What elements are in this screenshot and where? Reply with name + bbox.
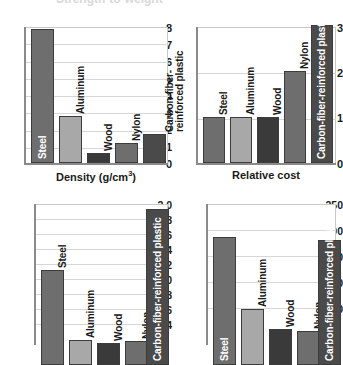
bars-density: Steel Aluminum Wood Nylon Carbon-fiber-r… — [26, 27, 168, 163]
bar-label-specific-aluminum: Aluminum — [258, 259, 268, 307]
bars-relative-cost: Steel Aluminum Wood Nylon Carbon-fiber-r… — [198, 27, 336, 163]
plot-area-relative-cost: Steel Aluminum Wood Nylon Carbon-fiber-r… — [196, 27, 336, 165]
bar-density-wood[interactable]: Wood — [87, 153, 110, 163]
bar-label-strength-cfrp: Carbon-fiber-reinforced plastic — [153, 217, 163, 361]
xaxis-caption-density-tail: ) — [132, 171, 136, 183]
bar-density-aluminum[interactable]: Aluminum — [59, 116, 82, 163]
xaxis-caption-density: Density (g/cm3) — [24, 169, 168, 183]
plot-area-specific-strength: Steel Aluminum Wood Nylon Carbon-fiber-r… — [206, 204, 336, 345]
bars-relative-strength: Steel Aluminum Wood Nylon Carbon-fiber-r… — [36, 204, 168, 365]
bar-cost-nylon[interactable]: Nylon — [284, 71, 306, 163]
chart-panel-specific-strength: 250 200 150 100 50 Steel Aluminum Wood — [172, 192, 343, 345]
bar-cost-aluminum[interactable]: Aluminum — [230, 117, 252, 163]
bar-label-strength-steel: Steel — [58, 245, 68, 268]
bar-strength-wood[interactable]: Wood — [97, 343, 120, 365]
bar-label-specific-cfrp: Carbon-fiber-reinforced plastic — [325, 217, 335, 361]
xaxis-caption-density-base: Density (g/cm — [56, 171, 128, 183]
bar-label-cost-cfrp: Carbon-fiber-reinforced plastic — [317, 15, 327, 159]
bar-label-cost-wood: Wood — [273, 88, 283, 115]
bar-cost-steel[interactable]: Steel — [203, 117, 225, 163]
bar-specific-aluminum[interactable]: Aluminum — [241, 309, 264, 365]
bar-label-density-wood: Wood — [104, 123, 114, 150]
bar-specific-nylon[interactable]: Nylon — [297, 331, 320, 365]
bar-strength-aluminum[interactable]: Aluminum — [69, 340, 92, 365]
bar-strength-cfrp[interactable]: Carbon-fiber-reinforced plastic — [146, 209, 169, 365]
plot-area-relative-strength: Steel Aluminum Wood Nylon Carbon-fiber-r… — [34, 204, 168, 345]
bar-label-specific-wood: Wood — [286, 300, 296, 327]
chart-panel-relative-strength: 2.0 1.8 1.6 1.4 1.2 1.0 0.8 0.6 0.4 Stee… — [0, 192, 172, 345]
bar-cost-cfrp[interactable]: Carbon-fiber-reinforced plastic — [311, 25, 333, 163]
xaxis-caption-relative-cost: Relative cost — [196, 169, 336, 181]
chart-panel-density: 8 7 6 5 4 3 2 1 0 Steel Aluminum — [0, 8, 172, 185]
bar-strength-nylon[interactable]: Nylon — [125, 341, 148, 365]
bar-density-nylon[interactable]: Nylon — [115, 143, 138, 163]
bar-specific-cfrp[interactable]: Carbon-fiber-reinforced plastic — [318, 240, 341, 365]
bar-label-cost-nylon: Nylon — [300, 42, 310, 69]
bar-label-strength-wood: Wood — [114, 314, 124, 341]
bar-density-cfrp[interactable]: Carbon-fiber-reinforced plastic — [143, 134, 166, 163]
bars-specific-strength: Steel Aluminum Wood Nylon Carbon-fiber-r… — [208, 204, 336, 365]
plot-area-density: Steel Aluminum Wood Nylon Carbon-fiber-r… — [24, 27, 168, 165]
bar-label-density-steel: Steel — [38, 136, 48, 159]
bar-specific-steel[interactable]: Steel — [213, 237, 236, 365]
bar-label-specific-steel: Steel — [220, 338, 230, 361]
cropped-top-text: Strength-to-weight — [0, 0, 343, 8]
bar-strength-steel[interactable]: Steel — [41, 270, 64, 365]
cropped-top-text-label: Strength-to-weight — [56, 0, 163, 6]
bar-label-strength-aluminum: Aluminum — [86, 290, 96, 338]
bar-label-cost-aluminum: Aluminum — [246, 67, 256, 115]
bar-specific-wood[interactable]: Wood — [269, 329, 292, 365]
bar-label-cost-steel: Steel — [219, 92, 229, 115]
bar-label-density-aluminum: Aluminum — [76, 66, 86, 114]
bar-label-density-nylon: Nylon — [132, 114, 142, 141]
chart-panel-relative-cost: 3 2 1 0 Steel Aluminum Wood Nylo — [172, 8, 343, 185]
bar-density-steel[interactable]: Steel — [31, 29, 54, 164]
bar-cost-wood[interactable]: Wood — [257, 117, 279, 163]
